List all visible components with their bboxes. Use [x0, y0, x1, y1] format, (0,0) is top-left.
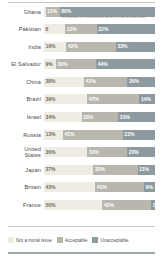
- bar-segment-acceptable: 30%: [56, 59, 96, 69]
- stacked-bar: 34%33%33%: [44, 112, 155, 122]
- legend-label: Unacceptable: [100, 238, 128, 243]
- stacked-bar: 9%30%44%: [44, 59, 155, 69]
- bar-segment-acceptable: 33%: [87, 147, 127, 157]
- row-label-israel: Israel: [2, 114, 44, 120]
- bar-segment-acceptable: 42%: [102, 200, 151, 210]
- bar-segment-unacceptable: 44%: [96, 59, 155, 69]
- chart-legend: Not a moral issueAcceptableUnacceptable: [8, 237, 155, 243]
- bar-segment-unacceptable: 33%: [116, 42, 155, 52]
- bar-segment-acceptable: 41%: [95, 182, 144, 192]
- bar-segment-not-a-moral-issue: 13%: [44, 130, 63, 140]
- row-label-ghana: Ghana: [2, 9, 44, 15]
- chart-row: Russia13%41%22%: [0, 128, 161, 141]
- legend-divider: [8, 226, 155, 227]
- chart-row: India19%42%33%: [0, 40, 161, 53]
- legend-swatch-icon: [8, 237, 14, 243]
- stacked-bar: 37%33%13%: [44, 165, 155, 175]
- stacked-bar: 43%41%9%: [44, 182, 155, 192]
- chart-row: Pakistan812%22%: [0, 23, 161, 36]
- row-label-china: China: [2, 79, 44, 85]
- stacked-bar: 812%22%: [44, 24, 155, 34]
- bar-segment-unacceptable: 14%: [139, 94, 155, 104]
- bar-segment-acceptable: 47%: [87, 94, 139, 104]
- legend-item[interactable]: Unacceptable: [92, 237, 128, 243]
- legend-label: Not a moral issue: [16, 238, 52, 243]
- top-divider: [8, 2, 155, 3]
- row-label-russia: Russia: [2, 132, 44, 138]
- bar-segment-unacceptable: 22%: [97, 24, 155, 34]
- chart-row: Japan37%33%13%: [0, 163, 161, 176]
- bar-segment-unacceptable: 9%: [144, 182, 155, 192]
- bar-segment-not-a-moral-issue: 9%: [44, 59, 56, 69]
- bar-segment-not-a-moral-issue: 34%: [44, 112, 82, 122]
- bar-segment-unacceptable: 3: [151, 200, 155, 210]
- bottom-divider: [8, 252, 155, 254]
- bar-segment-acceptable: 41%: [84, 77, 127, 87]
- chart-rows: Ghana1%12%80%Pakistan812%22%India19%42%3…: [0, 5, 161, 216]
- bar-segment-not-a-moral-issue: 37%: [44, 165, 93, 175]
- stacked-bar: 39%47%14%: [44, 94, 155, 104]
- chart-row: France50%42%3: [0, 199, 161, 212]
- legend-swatch-icon: [92, 237, 98, 243]
- row-label-el-salvador: El Salvador: [2, 61, 44, 67]
- chart-row: Britain43%41%9%: [0, 181, 161, 194]
- bar-segment-acceptable: 12%: [65, 24, 97, 34]
- stacked-bar: 50%42%3: [44, 200, 155, 210]
- legend-label: Acceptable: [65, 238, 88, 243]
- row-label-brazil: Brazil: [2, 96, 44, 102]
- row-label-united-states: United States: [2, 146, 44, 158]
- bar-segment-not-a-moral-issue: 19%: [44, 42, 66, 52]
- stacked-bar: 19%42%33%: [44, 42, 155, 52]
- stacked-bar-chart: Ghana1%12%80%Pakistan812%22%India19%42%3…: [0, 0, 161, 258]
- bar-segment-not-a-moral-issue: 43%: [44, 182, 95, 192]
- bar-segment-acceptable: 33%: [82, 112, 119, 122]
- stacked-bar: 36%33%23%: [44, 147, 155, 157]
- bar-segment-unacceptable: 13%: [138, 165, 155, 175]
- chart-row: Israel34%33%33%: [0, 111, 161, 124]
- bar-segment-unacceptable: 33%: [118, 112, 155, 122]
- bar-segment-acceptable: 41%: [63, 130, 123, 140]
- bar-segment-unacceptable: 26%: [127, 77, 154, 87]
- legend-item[interactable]: Not a moral issue: [8, 237, 52, 243]
- bar-segment-not-a-moral-issue: 36%: [44, 147, 87, 157]
- chart-row: China38%41%26%: [0, 75, 161, 88]
- legend-swatch-icon: [57, 237, 63, 243]
- bar-segment-not-a-moral-issue: 38%: [44, 77, 84, 87]
- row-label-france: France: [2, 202, 44, 208]
- bar-segment-not-a-moral-issue: 50%: [44, 200, 102, 210]
- stacked-bar: 38%41%26%: [44, 77, 155, 87]
- bar-segment-acceptable: 42%: [66, 42, 116, 52]
- chart-row: El Salvador9%30%44%: [0, 58, 161, 71]
- row-label-pakistan: Pakistan: [2, 26, 44, 32]
- row-label-japan: Japan: [2, 167, 44, 173]
- row-label-india: India: [2, 44, 44, 50]
- bar-segment-unacceptable: 22%: [123, 130, 155, 140]
- row-label-britain: Britain: [2, 184, 44, 190]
- stacked-bar: 13%41%22%: [44, 130, 155, 140]
- bar-segment-acceptable: 33%: [93, 165, 137, 175]
- legend-item[interactable]: Acceptable: [57, 237, 88, 243]
- bar-segment-acceptable: 12%: [46, 7, 60, 17]
- chart-row: United States36%33%23%: [0, 146, 161, 159]
- bar-segment-unacceptable: 23%: [127, 147, 155, 157]
- chart-footnote: *% of people in Ghana believe divorce is…: [60, 15, 145, 19]
- chart-row: Brazil39%47%14%: [0, 93, 161, 106]
- bar-segment-not-a-moral-issue: 8: [44, 24, 65, 34]
- bar-segment-not-a-moral-issue: 39%: [44, 94, 87, 104]
